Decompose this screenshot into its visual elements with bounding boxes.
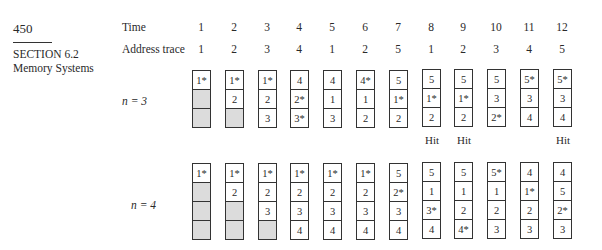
frame-cell: 1 [488,181,505,200]
time-value: 7 [383,21,413,33]
frame-cell: 1* [226,71,243,89]
address-trace-value: 2 [219,43,249,55]
frame-cell: 5* [554,70,571,88]
frame-cell: 5 [554,181,571,200]
header-rule [13,42,52,43]
section-number: SECTION 6.2 [13,47,94,61]
n3-frame-column: 532* [487,69,506,127]
time-value: 9 [448,21,478,33]
frame-cell: 4 [324,220,341,239]
n3-frame-column: 51*2 [422,69,441,127]
time-value: 4 [284,21,314,33]
frame-cell: 5 [423,70,440,88]
frame-cell: 3 [488,219,505,238]
frame-cell: 2 [357,182,374,201]
n4-frame-column: 513*4 [422,162,441,239]
frame-cell: 4 [357,220,374,239]
time-value: 10 [481,21,511,33]
empty-frame-cell [259,220,276,239]
hit-label: Hit [548,134,578,146]
frame-cell: 2 [226,89,243,108]
n4-frame-column: 52*34 [389,163,408,240]
frame-cell: 2 [226,182,243,201]
frame-cell: 2 [324,182,341,201]
frame-cell: 2* [554,200,571,219]
time-value: 5 [317,21,347,33]
frame-cell: 3 [259,108,276,127]
frame-cell: 3 [390,201,407,220]
frame-cell: 1 [455,181,472,200]
frame-cell: 3 [324,201,341,220]
frame-cell: 2* [488,107,505,126]
frame-cell: 2 [291,182,308,201]
frame-cell: 2 [357,108,374,127]
frame-cell: 1* [521,181,538,200]
frame-cell: 2 [488,200,505,219]
n4-frame-column: 5124* [454,162,473,239]
frame-cell: 2 [455,107,472,126]
frame-cell: 3 [291,201,308,220]
section-heading: SECTION 6.2 Memory Systems [13,47,94,75]
time-value: 2 [219,21,249,33]
frame-cell: 4 [521,107,538,126]
n4-frame-column: 1*23 [258,163,277,240]
frame-cell: 1 [423,181,440,200]
frame-cell: 2 [455,200,472,219]
frame-cell: 1* [390,89,407,108]
frame-cell: 2 [390,108,407,127]
n4-frame-column: 1*234 [290,163,309,240]
address-trace-value: 3 [252,43,282,55]
n4-frame-column: 1* [192,163,211,240]
n4-frame-column: 1*234 [356,163,375,240]
time-value: 3 [252,21,282,33]
frame-cell: 3 [521,88,538,107]
frame-cell: 1* [291,164,308,182]
time-row-label: Time [122,21,146,33]
frame-cell: 1* [324,164,341,182]
frame-cell: 3 [554,219,571,238]
hit-label: Hit [417,134,447,146]
n3-frame-column: 42*3* [290,70,309,128]
frame-cell: 3* [291,108,308,127]
address-trace-value: 5 [383,43,413,55]
n3-frame-column: 51*2 [454,69,473,127]
frame-cell: 4* [455,219,472,238]
time-value: 6 [350,21,380,33]
address-trace-value: 4 [284,43,314,55]
frame-cell: 3 [488,88,505,107]
frame-cell: 4 [554,107,571,126]
address-trace-row-label: Address trace [122,43,185,55]
empty-frame-cell [193,220,210,239]
frame-cell: 1* [193,71,210,89]
frame-cell: 1 [324,89,341,108]
frame-cell: 2* [291,89,308,108]
frame-cell: 5 [455,70,472,88]
frame-cell: 4 [324,71,341,89]
frame-cell: 2 [259,89,276,108]
empty-frame-cell [226,108,243,127]
n3-frame-column: 5*34 [520,69,539,127]
n4-label: n = 4 [131,199,156,211]
frame-cell: 5 [488,70,505,88]
n3-frame-column: 1*2 [225,70,244,128]
frame-cell: 2 [521,200,538,219]
frame-cell: 1* [226,164,243,182]
address-trace-value: 2 [448,43,478,55]
n3-frame-column: 1*23 [258,70,277,128]
frame-cell: 3 [324,108,341,127]
n4-frame-column: 5*123 [487,162,506,239]
frame-cell: 3 [521,219,538,238]
n4-frame-column: 1*2 [225,163,244,240]
frame-cell: 3* [423,200,440,219]
page-number: 450 [13,21,33,37]
frame-cell: 3 [554,88,571,107]
frame-cell: 1* [423,88,440,107]
frame-cell: 4 [554,163,571,181]
frame-cell: 1* [193,164,210,182]
address-trace-value: 1 [186,43,216,55]
frame-cell: 4 [291,220,308,239]
frame-cell: 3 [259,201,276,220]
frame-cell: 5 [423,163,440,181]
hit-label: Hit [449,134,479,146]
address-trace-value: 2 [350,43,380,55]
